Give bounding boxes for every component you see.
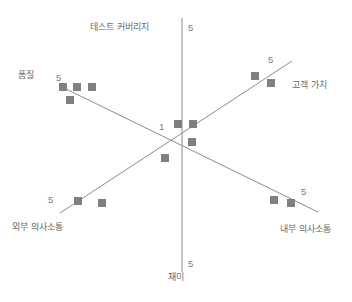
- data-point-marker: [188, 138, 196, 146]
- axis-tick-descending-diagonal-axis-0: 5: [56, 72, 61, 83]
- data-point-marker: [174, 120, 182, 128]
- data-point-marker: [98, 199, 106, 207]
- plot-canvas: [0, 0, 352, 302]
- label-fun: 재미: [168, 272, 184, 283]
- data-point-marker: [73, 83, 81, 91]
- data-point-marker: [161, 154, 169, 162]
- data-point-marker: [270, 196, 278, 204]
- data-point-marker: [66, 96, 74, 104]
- label-quality: 품질: [18, 70, 34, 81]
- axis-tick-ascending-diagonal-axis-0: 5: [48, 194, 53, 205]
- data-point-marker: [59, 83, 67, 91]
- axis-tick-vertical-axis-0: 5: [188, 22, 193, 33]
- data-points-group: [59, 72, 295, 207]
- axis-tick-descending-diagonal-axis-1: 5: [301, 186, 306, 197]
- data-point-marker: [74, 197, 82, 205]
- label-external-communication: 외부 의사소통: [12, 222, 63, 233]
- axis-tick-vertical-axis-2: 5: [188, 258, 193, 269]
- label-customer-value: 고객 가치: [292, 80, 327, 91]
- data-point-marker: [88, 83, 96, 91]
- data-point-marker: [189, 120, 197, 128]
- label-test-coverage: 테스트 커버리지: [90, 22, 149, 33]
- axis-tick-vertical-axis-1: 1: [159, 121, 164, 132]
- data-point-marker: [287, 199, 295, 207]
- label-internal-communication: 내부 의사소통: [280, 224, 331, 235]
- data-point-marker: [251, 72, 259, 80]
- scatter-plot-figure: 5155555 테스트 커버리지품질고객 가치외부 의사소통내부 의사소통재미: [0, 0, 352, 302]
- axis-line-descending-diagonal-axis: [62, 87, 318, 212]
- data-point-marker: [267, 79, 275, 87]
- axis-tick-ascending-diagonal-axis-1: 5: [268, 54, 273, 65]
